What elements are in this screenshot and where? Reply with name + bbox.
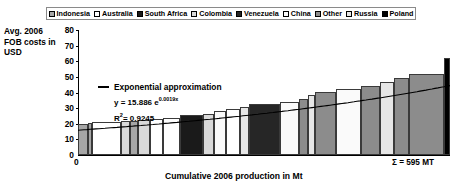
x-axis-origin-label: 0 — [74, 157, 79, 167]
legend-label: Venezuela — [244, 10, 279, 18]
chart-root: IndonesiaAustraliaSouth AfricaColombiaVe… — [0, 0, 458, 189]
trend-caption-row: Exponential approximation — [98, 82, 222, 92]
legend-item-china[interactable]: China — [283, 10, 311, 18]
total-production-label: Σ = 595 MT — [392, 158, 434, 167]
y-tick-label: 80 — [56, 26, 74, 34]
legend-item-poland[interactable]: Poland — [382, 10, 414, 18]
legend-item-indonesia[interactable]: Indonesia — [49, 10, 91, 18]
legend-item-south-africa[interactable]: South Africa — [137, 10, 187, 18]
r-squared-line: R2= 0.9245 — [114, 110, 222, 124]
legend-swatch-icon — [382, 11, 388, 17]
y-axis-title: Avg. 2006 FOB costs in USD — [4, 26, 58, 58]
legend-swatch-icon — [283, 11, 289, 17]
legend-label: Other — [323, 10, 342, 18]
legend-item-russia[interactable]: Russia — [346, 10, 378, 18]
trend-label: Exponential approximation — [114, 82, 222, 92]
equation-line: y = 15.886 e0.0019x — [114, 94, 222, 108]
legend-item-colombia[interactable]: Colombia — [191, 10, 232, 18]
legend-swatch-icon — [49, 11, 55, 17]
legend-swatch-icon — [315, 11, 321, 17]
y-tick-label: 70 — [56, 42, 74, 50]
y-tick-label: 60 — [56, 57, 74, 65]
legend-swatch-icon — [236, 11, 242, 17]
legend-item-other[interactable]: Other — [315, 10, 342, 18]
y-tick-label: 10 — [56, 135, 74, 143]
equation-exponent: 0.0019x — [159, 96, 179, 102]
legend-label: Colombia — [199, 10, 232, 18]
trend-line-swatch — [98, 86, 109, 88]
equation-prefix: y = 15.886 e — [114, 98, 159, 107]
legend-swatch-icon — [137, 11, 143, 17]
legend-label: South Africa — [145, 10, 187, 18]
legend-swatch-icon — [191, 11, 197, 17]
legend-label: Russia — [354, 10, 378, 18]
chart-legend: IndonesiaAustraliaSouth AfricaColombiaVe… — [46, 7, 416, 20]
y-tick-label: 50 — [56, 73, 74, 81]
legend-item-venezuela[interactable]: Venezuela — [236, 10, 279, 18]
x-axis-title: Cumulative 2006 production in Mt — [165, 171, 303, 181]
legend-label: China — [291, 10, 311, 18]
r-squared-value: = 0.9245 — [123, 113, 154, 122]
legend-label: Indonesia — [57, 10, 91, 18]
trend-annotation: Exponential approximation y = 15.886 e0.… — [98, 82, 222, 123]
legend-label: Poland — [390, 10, 414, 18]
legend-label: Australia — [102, 10, 133, 18]
legend-item-australia[interactable]: Australia — [94, 10, 133, 18]
y-tick-label: 0 — [56, 151, 74, 159]
legend-swatch-icon — [94, 11, 100, 17]
legend-swatch-icon — [346, 11, 352, 17]
y-tick-label: 30 — [56, 104, 74, 112]
y-tick-label: 40 — [56, 89, 74, 97]
y-tick-label: 20 — [56, 120, 74, 128]
